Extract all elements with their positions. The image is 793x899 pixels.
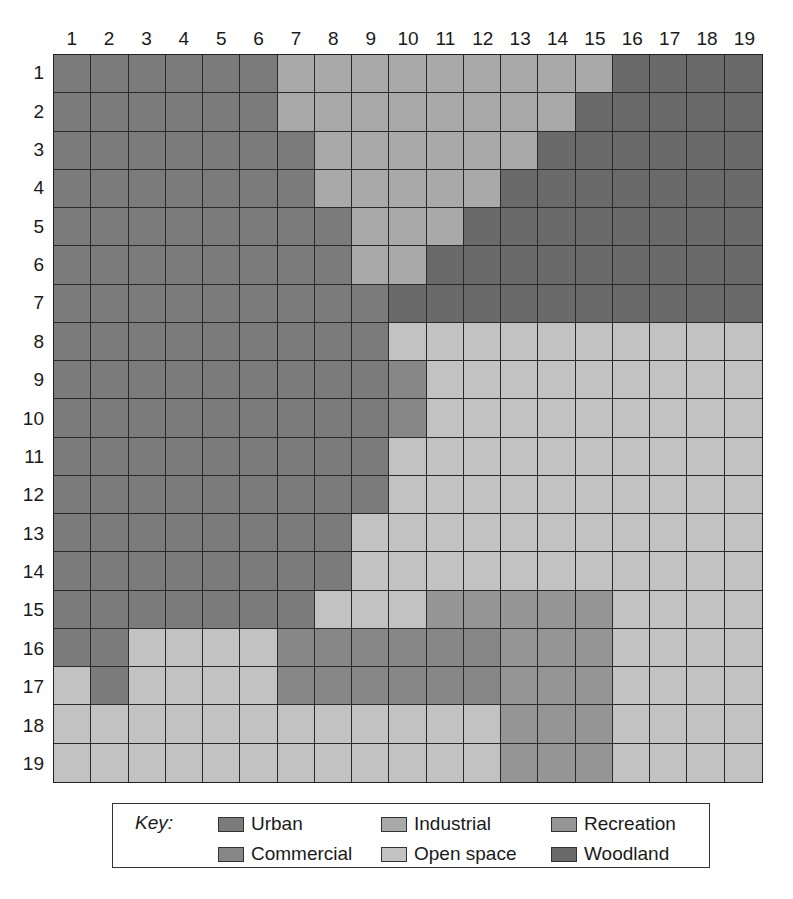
grid-cell-urban	[166, 55, 203, 93]
row-header: 6	[0, 246, 48, 284]
grid-cell-woodland	[389, 285, 426, 323]
grid-cell-recreation	[576, 744, 613, 782]
grid-cell-woodland	[501, 285, 538, 323]
grid-cell-industrial	[427, 132, 464, 170]
grid-cell-urban	[54, 438, 91, 476]
grid-cell-open-space	[129, 744, 166, 782]
grid-cell-urban	[315, 514, 352, 552]
grid-cell-industrial	[352, 170, 389, 208]
grid-cell-open-space	[538, 438, 575, 476]
grid-cell-urban	[240, 438, 277, 476]
grid-cell-urban	[240, 55, 277, 93]
grid-cell-industrial	[427, 55, 464, 93]
row-headers: 12345678910111213141516171819	[0, 54, 48, 783]
grid-cell-open-space	[427, 323, 464, 361]
grid-cell-woodland	[613, 132, 650, 170]
commercial-swatch-icon	[218, 847, 244, 862]
grid-cell-commercial	[278, 629, 315, 667]
grid-cell-open-space	[613, 399, 650, 437]
grid-cell-commercial	[389, 399, 426, 437]
row-header: 2	[0, 92, 48, 130]
legend-item-recreation: Recreation	[551, 813, 676, 835]
grid-cell-open-space	[464, 438, 501, 476]
grid-cell-recreation	[501, 591, 538, 629]
grid-cell-recreation	[538, 667, 575, 705]
legend-label: Open space	[414, 843, 516, 865]
grid-cell-urban	[129, 285, 166, 323]
grid-cell-urban	[166, 476, 203, 514]
grid-cell-open-space	[389, 744, 426, 782]
grid-cell-industrial	[389, 55, 426, 93]
grid-cell-open-space	[389, 705, 426, 743]
grid-cell-open-space	[278, 744, 315, 782]
legend-label: Urban	[251, 813, 303, 835]
grid-cell-woodland	[501, 246, 538, 284]
column-header: 3	[128, 24, 165, 54]
grid-cell-urban	[91, 170, 128, 208]
grid-cell-open-space	[464, 399, 501, 437]
grid-cell-open-space	[389, 552, 426, 590]
grid-cell-open-space	[464, 514, 501, 552]
grid-cell-urban	[166, 170, 203, 208]
grid-cell-woodland	[650, 208, 687, 246]
grid-cell-open-space	[352, 591, 389, 629]
grid-cell-industrial	[427, 208, 464, 246]
grid-cell-open-space	[613, 323, 650, 361]
grid-cell-woodland	[576, 132, 613, 170]
grid-cell-urban	[91, 399, 128, 437]
grid-cell-urban	[240, 591, 277, 629]
grid-cell-woodland	[613, 246, 650, 284]
grid-cell-open-space	[576, 361, 613, 399]
grid-cell-open-space	[687, 361, 724, 399]
grid-cell-urban	[91, 514, 128, 552]
grid-cell-woodland	[687, 93, 724, 131]
grid-cell-open-space	[427, 514, 464, 552]
grid-cell-open-space	[166, 667, 203, 705]
grid-cell-open-space	[240, 629, 277, 667]
grid-cell-open-space	[389, 476, 426, 514]
grid-cell-open-space	[203, 705, 240, 743]
grid-cell-urban	[54, 246, 91, 284]
grid-cell-open-space	[389, 323, 426, 361]
grid-cell-woodland	[650, 246, 687, 284]
grid-cell-urban	[203, 323, 240, 361]
row-header: 12	[0, 476, 48, 514]
grid-cell-industrial	[315, 55, 352, 93]
grid-cell-urban	[278, 476, 315, 514]
grid-cell-open-space	[725, 438, 762, 476]
row-header: 19	[0, 745, 48, 783]
grid-cell-industrial	[464, 93, 501, 131]
grid-cell-open-space	[650, 552, 687, 590]
grid-cell-urban	[166, 246, 203, 284]
grid-cell-industrial	[389, 246, 426, 284]
grid-cell-urban	[240, 93, 277, 131]
grid-cell-woodland	[538, 285, 575, 323]
grid-cell-urban	[54, 361, 91, 399]
grid-cell-open-space	[203, 667, 240, 705]
legend: Key: Urban Industrial Recreation Commerc…	[112, 803, 710, 868]
grid-cell-open-space	[576, 476, 613, 514]
grid-cell-open-space	[427, 438, 464, 476]
grid-cell-urban	[91, 667, 128, 705]
grid-cell-urban	[166, 399, 203, 437]
grid-cell-urban	[315, 323, 352, 361]
grid-cell-urban	[129, 246, 166, 284]
grid-cell-commercial	[278, 667, 315, 705]
grid-cell-open-space	[576, 399, 613, 437]
grid-cell-woodland	[725, 246, 762, 284]
grid-cell-urban	[278, 399, 315, 437]
grid-cell-open-space	[725, 667, 762, 705]
grid-cell-woodland	[687, 246, 724, 284]
grid-cell-open-space	[427, 361, 464, 399]
grid-cell-urban	[352, 361, 389, 399]
row-header: 13	[0, 515, 48, 553]
row-header: 3	[0, 131, 48, 169]
grid-cell-recreation	[538, 629, 575, 667]
grid-cell-open-space	[725, 705, 762, 743]
grid-cell-woodland	[725, 93, 762, 131]
grid-cell-open-space	[725, 399, 762, 437]
grid-cell-industrial	[278, 93, 315, 131]
grid-cell-woodland	[687, 132, 724, 170]
grid-cell-woodland	[576, 170, 613, 208]
grid-cell-recreation	[576, 705, 613, 743]
